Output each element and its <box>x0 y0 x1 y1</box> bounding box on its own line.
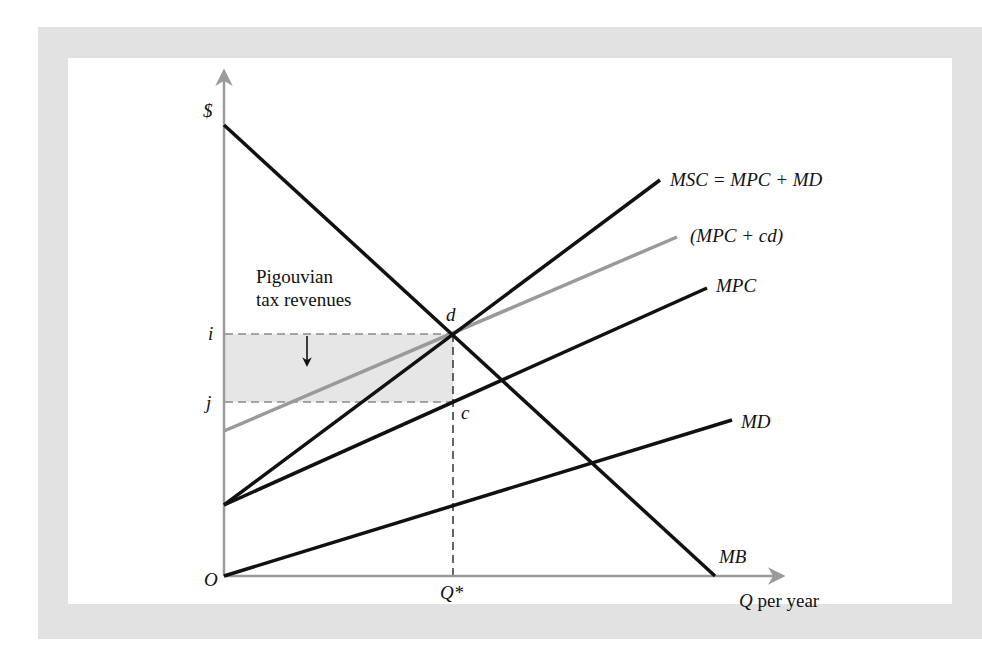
mpc-cd-label: (MPC + cd) <box>690 225 783 247</box>
annotation-line2: tax revenues <box>256 289 351 310</box>
i-label: i <box>208 323 213 344</box>
md-curve <box>224 420 732 576</box>
d-label: d <box>446 304 456 325</box>
pigouvian-tax-diagram: $ O Q per year i j d c Q* MSC = MPC + MD… <box>0 0 982 672</box>
x-axis-label: Q per year <box>739 590 820 611</box>
j-label: j <box>203 392 211 413</box>
mpc-label: MPC <box>715 275 756 296</box>
y-axis-label: $ <box>203 100 213 121</box>
annotation-line1: Pigouvian <box>256 266 334 287</box>
origin-label: O <box>204 569 218 590</box>
msc-label: MSC = MPC + MD <box>669 169 823 190</box>
mb-label: MB <box>718 546 747 567</box>
qstar-label: Q* <box>440 582 464 603</box>
x-axis-label-rest: per year <box>753 590 820 611</box>
md-label: MD <box>740 411 771 432</box>
x-axis-label-var: Q <box>739 590 753 611</box>
tax-revenue-area <box>225 334 453 402</box>
c-label: c <box>461 402 470 423</box>
